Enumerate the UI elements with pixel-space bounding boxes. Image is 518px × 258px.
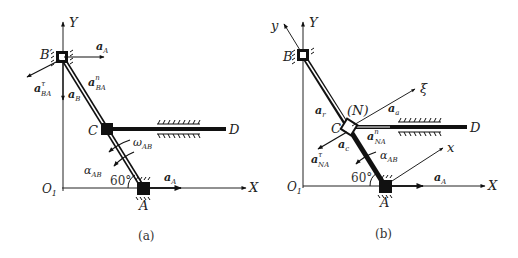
- vector-aB-label-a: aB: [68, 88, 80, 103]
- x-axis-label-b: X: [487, 178, 498, 193]
- vector-ar-label-b: ar: [315, 104, 326, 119]
- angle-label-a: 60°: [110, 174, 131, 188]
- alpha-label-a: αAB: [84, 164, 102, 179]
- point-a-label-a: A: [138, 198, 148, 213]
- angle-label-b: 60°: [351, 171, 372, 185]
- slider-a-a: [137, 182, 150, 195]
- vector-ac-label-b: ac: [338, 138, 349, 153]
- vector-aNA-tau-label-b: aτNA: [311, 151, 329, 169]
- y-axis-label-a: Y: [69, 15, 79, 30]
- panel-a: Y X O1 C D B′ A: [27, 15, 259, 243]
- vector-aBA-tau-a: [27, 60, 60, 77]
- omega-label-a: ωAB: [133, 136, 152, 151]
- x-axis-label-a: X: [248, 180, 259, 195]
- alpha-label-b: αAB: [380, 149, 398, 164]
- point-n-label-b: (N): [347, 103, 369, 118]
- caption-a: (a): [138, 229, 155, 243]
- vector-aBA-n-label-a: anBA: [88, 74, 106, 92]
- point-b-label-b: B: [282, 49, 293, 64]
- point-c-label-b: C: [331, 121, 341, 136]
- vector-aA-label-b: aA: [434, 171, 446, 186]
- point-c-label-a: C: [88, 123, 98, 138]
- caption-b: (b): [375, 227, 392, 241]
- point-b-label-a: B′: [39, 47, 53, 62]
- point-a-label-b: A: [379, 195, 389, 210]
- vector-aA-top-label-a: aA: [96, 40, 108, 55]
- xi-axis-label-b: ξ: [420, 81, 428, 96]
- x-rot-axis-label-b: x: [447, 140, 455, 155]
- origin-label-a: O1: [42, 182, 57, 198]
- y-axis-label-b: Y: [309, 15, 319, 30]
- slider-a-b: [379, 180, 392, 193]
- point-d-label-b: D: [469, 120, 481, 135]
- vector-aA-bottom-label-a: aA: [164, 171, 176, 186]
- point-d-label-a: D: [228, 122, 240, 137]
- vector-aBA-tau-label-a: aτBA: [34, 80, 51, 98]
- vector-aNA-n-label-b: anNA: [367, 128, 386, 146]
- y-rot-axis-label-b: y: [270, 18, 279, 33]
- mechanism-diagram: Y X O1 C D B′ A: [0, 0, 518, 258]
- origin-label-b: O1: [287, 180, 302, 196]
- vector-aa-label-b: aa: [388, 102, 399, 117]
- slider-c-a: [101, 123, 113, 135]
- panel-b: Y y X O1 C (N) D ξ B: [270, 15, 498, 241]
